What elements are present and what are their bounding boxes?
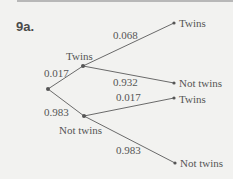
- leaf-node: [173, 161, 176, 164]
- prob-twins-not-twins: 0.932: [113, 77, 138, 88]
- prob-twins-twins: 0.068: [113, 30, 138, 41]
- leaf-node: [172, 96, 175, 99]
- leaf-label-not-twins-twins: Twins: [179, 94, 206, 105]
- node-not-twins: [82, 114, 86, 118]
- prob-not-twins-not-twins: 0.983: [116, 145, 141, 156]
- node-twins: [81, 64, 85, 68]
- node-label-not-twins: Not twins: [59, 125, 102, 136]
- leaf-node: [172, 81, 175, 84]
- prob-root-not-twins: 0.983: [44, 107, 69, 118]
- leaf-label-twins-not-twins: Not twins: [179, 78, 222, 89]
- node-label-twins: Twins: [66, 51, 93, 62]
- root-node: [46, 87, 50, 91]
- leaf-node: [172, 21, 175, 24]
- leaf-label-twins-twins: Twins: [179, 18, 206, 29]
- leaf-label-not-twins-not-twins: Not twins: [180, 158, 223, 169]
- prob-not-twins-twins: 0.017: [116, 92, 141, 103]
- prob-root-twins: 0.017: [44, 68, 69, 79]
